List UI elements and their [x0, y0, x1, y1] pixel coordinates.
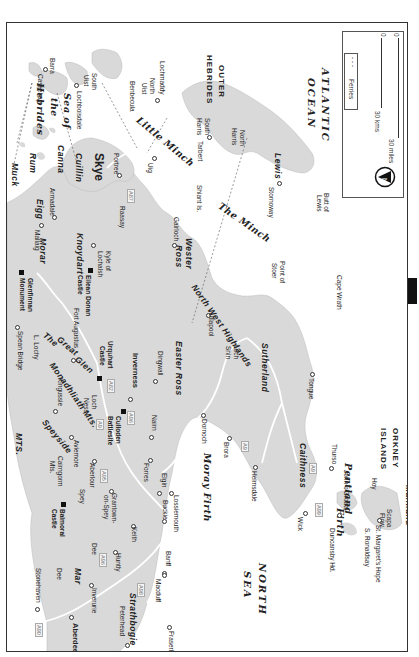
region-outer: OUTER	[217, 65, 225, 98]
town-portree: Portree	[113, 153, 120, 174]
town-huntly: Huntly	[115, 553, 122, 571]
town-kyle-2: Lochalsh	[97, 251, 104, 277]
town-dot-mallaig	[39, 223, 44, 228]
region-south-harris-2: Harris	[196, 118, 203, 135]
water-loch-shin-2: Shin	[225, 346, 232, 359]
headland-duncansby: Duncansby Hd.	[329, 528, 336, 572]
scale-bar-kms	[381, 38, 382, 108]
town-tongue: Tongue	[308, 378, 315, 399]
road-a96-east: A96	[99, 553, 107, 567]
town-inverness: Inverness	[132, 353, 140, 388]
headland-butt-of-lewis-1: Butt of	[323, 193, 330, 212]
landmark-urquhart-1: Urquhart	[107, 341, 114, 368]
road-a96: A96	[127, 411, 135, 425]
water-the: the	[50, 98, 60, 117]
town-dot-fraserburgh	[167, 625, 172, 630]
town-dot-spean-bridge	[15, 325, 20, 330]
town-lochboisdale: Lochboisdale	[76, 91, 83, 129]
town-dot-aberdeen	[69, 615, 74, 620]
svg-text:N: N	[381, 178, 388, 183]
town-spean-bridge: Spean Bridge	[17, 331, 24, 370]
region-rum: Rum	[29, 153, 38, 173]
town-lossiemouth: Lossiemouth	[173, 495, 180, 532]
town-wick: Wick	[297, 517, 304, 531]
town-keith: Keith	[131, 527, 138, 542]
region-caithness: Caithness	[299, 443, 308, 488]
road-a9-south: A9	[96, 419, 104, 430]
town-dot-thurso	[329, 466, 334, 471]
road-a9-thurso: A9	[309, 463, 317, 474]
region-south-uist-1: South	[91, 73, 98, 90]
town-stonehaven: Stonehaven	[35, 568, 42, 603]
town-kyle-1: Kyle of	[105, 251, 112, 271]
water-sea-of: Sea of	[63, 93, 73, 129]
town-dot-fort-augustus	[71, 358, 76, 363]
scale-zero-top: 0	[393, 33, 400, 37]
ferries-dashes: - - -	[350, 57, 357, 67]
town-dot-lochboisdale	[74, 83, 79, 88]
town-aberdeen: Aberdeen	[72, 623, 80, 652]
town-brora: Brora	[223, 442, 230, 458]
region-benbecula: Benbecula	[129, 81, 136, 112]
sea-label-atlantic: ATLANTIC	[320, 68, 330, 143]
water-loch-ness-1: Loch	[91, 395, 98, 409]
river-spey: Spey	[79, 489, 86, 504]
region-s-ronaldsay: S. Ronaldsay	[364, 528, 371, 567]
town-dot-kingussie	[53, 409, 58, 414]
landmark-urquhart-2: Castle	[99, 346, 106, 366]
town-armadale: Armadale	[49, 188, 56, 216]
town-tarbert: Tarbert	[197, 141, 204, 161]
river-l-lochy: L. Lochy	[33, 335, 40, 360]
landmark-marker-balmoral	[61, 502, 66, 507]
town-elgin: Elgin	[161, 473, 168, 487]
landmark-marker-eilean-donan	[88, 268, 93, 273]
road-a99: A99	[315, 503, 323, 517]
town-forres: Forres	[143, 463, 150, 482]
town-mallaig: Mallaig	[34, 230, 41, 251]
town-dot-gairloch	[172, 243, 177, 248]
town-banff: Banff	[165, 551, 172, 566]
town-grantown-1: Grantown-	[111, 493, 118, 523]
region-canna: Canna	[57, 145, 66, 173]
region-north-harris-1: North	[239, 130, 246, 146]
landmark-culloden-1: Culloden	[115, 416, 122, 444]
region-grampian-mts: MTS.	[15, 433, 24, 455]
headland-point-of-stoer-1: Point of	[279, 261, 286, 283]
road-a98: A98	[137, 583, 145, 597]
region-raasay: Raasay	[119, 206, 126, 228]
road-a82: A82	[107, 379, 115, 393]
town-ullapool: Ullapool	[208, 313, 215, 337]
town-dot-stornoway	[277, 181, 282, 186]
headland-cape-wrath: Cape Wrath	[336, 275, 343, 310]
region-muck: Muck	[11, 163, 20, 187]
town-inverurie: Inverurie	[91, 588, 98, 613]
town-dot-peterhead	[125, 643, 130, 648]
town-buckie: Buckie	[162, 500, 169, 520]
region-knoydart: Knoydart	[76, 233, 85, 274]
region-skye: Skye	[93, 153, 105, 181]
town-nairn: Nairn	[151, 415, 158, 431]
town-dot-stonehaven	[35, 607, 40, 612]
road-a95: A95	[100, 469, 108, 483]
landmark-balmoral-1: Balmoral	[59, 509, 66, 537]
town-macduff: Macduff	[155, 579, 162, 602]
region-easter-ross: Easter Ross	[175, 341, 184, 396]
region-strathbogie: Strathbogie	[129, 593, 138, 646]
town-lochmaddy: Lochmaddy	[159, 61, 166, 95]
sea-label-ocean: OCEAN	[306, 78, 316, 129]
region-orkney: ORKNEY	[391, 428, 399, 468]
landmark-marker-culloden	[121, 409, 126, 414]
region-barra: Barra	[49, 58, 56, 74]
town-dot-lochmaddy	[155, 98, 160, 103]
town-dingwall: Dingwall	[157, 351, 164, 376]
town-dot-john-o-groats	[337, 513, 342, 518]
road-a87: A87	[127, 189, 135, 203]
river-dee-2: Dee	[56, 568, 63, 580]
landmark-glenfinnan-2: Monument	[19, 278, 26, 311]
sea-label-sea: SEA	[242, 571, 252, 600]
road-a90: A90	[35, 623, 43, 637]
town-dot-dingwall	[153, 379, 158, 384]
town-uig: Uig	[147, 163, 154, 173]
road-a9-north: A9	[241, 441, 249, 452]
region-cairngorm-1: Cairngorm	[57, 456, 64, 486]
